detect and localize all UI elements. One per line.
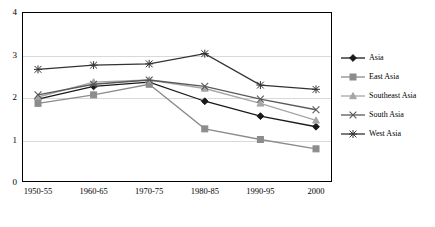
data-point-marker [313, 123, 320, 130]
data-point-marker [257, 137, 263, 143]
data-point-marker [90, 61, 98, 69]
cross-marker-icon [340, 109, 366, 121]
data-point-marker [91, 92, 97, 98]
y-tick-label: 0 [13, 178, 18, 187]
square-marker-icon [340, 71, 366, 83]
legend-item: Southeast Asia [340, 86, 432, 105]
legend-item: Asia [340, 48, 432, 67]
x-axis-labels: 1950-551960-651970-751980-851990-952000 [22, 186, 332, 200]
x-tick-label: 1990-95 [246, 186, 274, 196]
y-tick-label: 1 [13, 135, 18, 144]
x-tick-label: 1950-55 [24, 186, 52, 196]
data-point-marker [201, 50, 209, 58]
y-tick-label: 2 [13, 93, 18, 102]
series-line [38, 84, 316, 149]
legend-item: West Asia [340, 124, 432, 143]
x-tick-label: 1970-75 [135, 186, 163, 196]
data-point-marker [35, 100, 41, 106]
legend-label: Southeast Asia [366, 91, 416, 100]
legend-label: West Asia [366, 129, 401, 138]
star-marker-icon [340, 128, 366, 140]
x-tick-label: 2000 [308, 186, 325, 196]
legend: AsiaEast AsiaSoutheast AsiaSouth AsiaWes… [340, 48, 432, 143]
series-lines [22, 12, 332, 182]
legend-label: South Asia [366, 110, 404, 119]
triangle-marker-icon [340, 90, 366, 102]
data-point-marker [202, 126, 208, 132]
y-tick-label: 4 [13, 8, 18, 17]
data-point-marker [313, 146, 319, 152]
data-point-marker [201, 98, 208, 105]
x-tick-label: 1960-65 [79, 186, 107, 196]
legend-item: South Asia [340, 105, 432, 124]
data-point-marker [312, 85, 320, 93]
legend-label: East Asia [366, 72, 399, 81]
data-point-marker [257, 113, 264, 120]
y-axis-labels: 43210 [0, 12, 20, 182]
legend-item: East Asia [340, 67, 432, 86]
legend-label: Asia [366, 53, 384, 62]
series-line [38, 82, 316, 127]
data-point-marker [256, 81, 264, 89]
data-point-marker [145, 60, 153, 68]
diamond-marker-icon [340, 52, 366, 64]
line-chart: 43210 1950-551960-651970-751980-851990-9… [0, 0, 435, 227]
x-tick-label: 1980-85 [191, 186, 219, 196]
data-point-marker [34, 65, 42, 73]
y-tick-label: 3 [13, 50, 18, 59]
